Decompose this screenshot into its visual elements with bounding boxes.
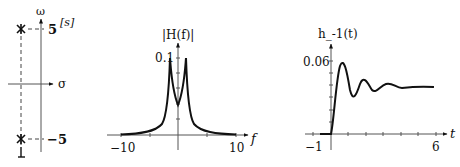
y-axis-title: |H(f)| [162,28,194,42]
plane-label: [s] [60,16,75,29]
x-tick-neg10: −10 [110,141,135,155]
sigma-minus-one-marker [18,147,25,157]
pole-marker-lower [17,134,25,144]
pole-marker-upper [17,24,25,34]
y-axis-title-step: h_-1(t) [318,27,358,41]
x-tick-10: 10 [229,141,244,155]
x-axis-title: f [250,131,258,146]
pole-zero-plot: ω σ 5 [s] −5 [8,5,75,157]
sigma-label: σ [58,77,66,91]
y-tick-0.1: 0.1 [155,51,174,65]
step-response-plot: h_-1(t) 0.06 −1 6 t [303,27,456,154]
tick-label-5: 5 [48,22,57,37]
step-response-curve [320,63,434,134]
omega-label: ω [36,5,45,18]
magnitude-plot: |H(f)| 0.1 −10 10 f [107,28,258,155]
y-tick-0.06: 0.06 [303,55,330,69]
tick-label-neg5: −5 [47,132,67,147]
x-tick-neg1: −1 [305,140,323,154]
x-axis-title-step: t [450,126,456,141]
x-tick-6: 6 [432,140,440,154]
